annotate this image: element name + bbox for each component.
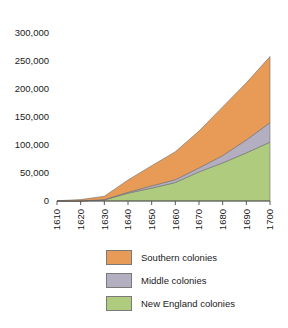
legend-label: Middle colonies bbox=[141, 273, 206, 288]
x-tick-label: 1630 bbox=[99, 209, 110, 230]
stacked-area-chart-figure: 050,000100,000150,000200,000250,000300,0… bbox=[0, 0, 288, 328]
x-tick-label: 1610 bbox=[51, 209, 62, 230]
y-tick-label: 150,000 bbox=[15, 111, 49, 122]
x-tick-label: 1660 bbox=[170, 209, 181, 230]
chart-legend: Southern coloniesMiddle coloniesNew Engl… bbox=[106, 249, 266, 312]
legend-label: New England colonies bbox=[141, 296, 235, 311]
y-tick-label: 100,000 bbox=[15, 139, 49, 150]
legend-item: Middle colonies bbox=[106, 272, 266, 289]
y-tick-label: 200,000 bbox=[15, 83, 49, 94]
y-tick-label: 250,000 bbox=[15, 55, 49, 66]
x-tick-label: 1700 bbox=[264, 209, 275, 230]
legend-label: Southern colonies bbox=[141, 250, 217, 265]
legend-swatch-middle-colonies bbox=[106, 273, 132, 288]
y-tick-label: 50,000 bbox=[20, 167, 49, 178]
y-tick-label: 0 bbox=[44, 195, 49, 206]
legend-item: New England colonies bbox=[106, 295, 266, 312]
legend-swatch-southern-colonies bbox=[106, 250, 132, 265]
y-axis-tick-labels: 050,000100,000150,000200,000250,000300,0… bbox=[15, 27, 49, 206]
legend-swatch-new-england-colonies bbox=[106, 296, 132, 311]
x-tick-label: 1690 bbox=[241, 209, 252, 230]
y-tick-label: 300,000 bbox=[15, 27, 49, 38]
x-tick-label: 1640 bbox=[122, 209, 133, 230]
x-tick-label: 1670 bbox=[193, 209, 204, 230]
legend-item: Southern colonies bbox=[106, 249, 266, 266]
area-series-group bbox=[57, 57, 270, 201]
x-tick-label: 1620 bbox=[75, 209, 86, 230]
x-axis-tick-labels: 1610162016301640165016601670168016901700 bbox=[51, 201, 275, 230]
x-tick-label: 1680 bbox=[217, 209, 228, 230]
x-tick-label: 1650 bbox=[146, 209, 157, 230]
